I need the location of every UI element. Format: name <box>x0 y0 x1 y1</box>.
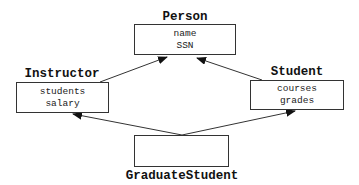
edge-instructor-to-person <box>100 57 167 82</box>
class-title-instructor: Instructor <box>24 67 99 81</box>
attribute-courses: courses <box>277 83 317 95</box>
edge-graduatestudent-to-instructor <box>73 114 182 135</box>
class-box-instructor: students salary <box>16 82 109 113</box>
edge-student-to-person <box>197 58 262 80</box>
attribute-grades: grades <box>280 95 314 107</box>
attribute-students: students <box>40 86 86 98</box>
class-title-student: Student <box>271 65 324 79</box>
class-title-person: Person <box>162 10 207 24</box>
class-box-graduatestudent <box>134 135 229 167</box>
attribute-ssn: SSN <box>176 40 193 52</box>
edge-graduatestudent-to-student <box>182 111 295 135</box>
class-box-person: name SSN <box>134 24 236 55</box>
attribute-salary: salary <box>45 98 79 110</box>
class-box-student: courses grades <box>250 80 344 110</box>
attribute-name: name <box>174 28 197 40</box>
class-diagram: Person name SSN Instructor students sala… <box>0 0 359 185</box>
class-title-graduatestudent: GraduateStudent <box>126 169 239 183</box>
